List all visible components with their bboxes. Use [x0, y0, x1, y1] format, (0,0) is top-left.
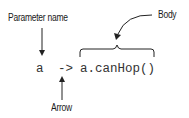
arrow-pointer-arrow-icon	[59, 76, 65, 100]
diagram-connectors	[0, 0, 189, 118]
body-brace-icon	[80, 45, 154, 57]
parameter-pointer-arrow-icon	[39, 28, 45, 56]
body-pointer-arrow-icon	[114, 15, 152, 40]
